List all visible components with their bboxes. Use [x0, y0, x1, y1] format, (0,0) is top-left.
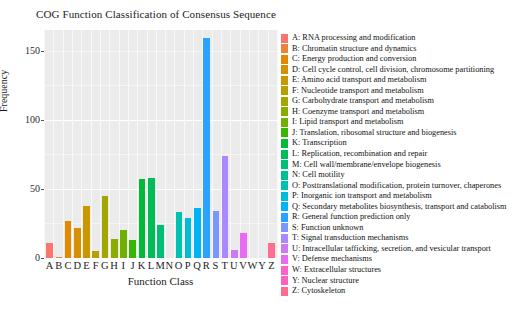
bar-slot: [73, 30, 82, 258]
x-axis-title: Function Class: [44, 275, 277, 287]
bar-slot: [184, 30, 193, 258]
legend-item[interactable]: S: Function unknown: [281, 223, 513, 234]
legend-item[interactable]: L: Replication, recombination and repair: [281, 149, 513, 160]
bar-p[interactable]: [185, 218, 192, 258]
legend-label: H: Coenzyme transport and metabolism: [292, 107, 424, 117]
legend-swatch-icon: [281, 107, 288, 116]
legend-item[interactable]: E: Amino acid transport and metabolism: [281, 75, 513, 86]
legend-swatch-icon: [281, 213, 288, 222]
bar-u[interactable]: [231, 250, 238, 258]
bar-g[interactable]: [102, 196, 109, 258]
legend-label: C: Energy production and conversion: [292, 54, 416, 64]
legend-swatch-icon: [281, 86, 288, 95]
bar-slot: [267, 30, 276, 258]
legend-swatch-icon: [281, 55, 288, 64]
legend-item[interactable]: V: Defense mechanisms: [281, 254, 513, 265]
legend-item[interactable]: P: Inorganic ion transport and metabolis…: [281, 191, 513, 202]
legend-item[interactable]: F: Nucleotide transport and metabolism: [281, 86, 513, 97]
bar-i[interactable]: [120, 230, 127, 258]
legend-item[interactable]: C: Energy production and conversion: [281, 54, 513, 65]
bar-z[interactable]: [268, 243, 275, 258]
legend-item[interactable]: U: Intracellular tafficking, secretion, …: [281, 244, 513, 255]
bar-a[interactable]: [46, 243, 53, 258]
legend-item[interactable]: H: Coenzyme transport and metabolism: [281, 107, 513, 118]
bar-q[interactable]: [194, 208, 201, 258]
legend-item[interactable]: Z: Cytoskeleton: [281, 286, 513, 297]
legend-swatch-icon: [281, 234, 288, 243]
bar-slot: [63, 30, 72, 258]
legend-label: U: Intracellular tafficking, secretion, …: [292, 244, 491, 254]
legend-swatch-icon: [281, 34, 288, 43]
x-tick-label: I: [119, 260, 128, 271]
legend-item[interactable]: D: Cell cycle control, cell division, ch…: [281, 65, 513, 76]
bar-l[interactable]: [148, 178, 155, 258]
legend-swatch-icon: [281, 44, 288, 53]
legend-swatch-icon: [281, 150, 288, 159]
x-tick-label: Y: [258, 260, 267, 271]
x-tick-label: R: [202, 260, 211, 271]
legend-label: K: Transcription: [292, 138, 347, 148]
legend-label: E: Amino acid transport and metabolism: [292, 75, 426, 85]
x-tick-label: N: [165, 260, 174, 271]
bar-slot: [128, 30, 137, 258]
x-tick-label: C: [63, 260, 72, 271]
x-tick-label: Q: [192, 260, 201, 271]
x-tick-label: L: [146, 260, 155, 271]
x-tick-label: G: [100, 260, 109, 271]
legend-label: J: Translation, ribosomal structure and …: [292, 128, 457, 138]
x-tick-label: D: [73, 260, 82, 271]
bar-v[interactable]: [240, 233, 247, 258]
bar-slot: [248, 30, 257, 258]
bar-slot: [257, 30, 266, 258]
bar-slot: [165, 30, 174, 258]
x-tick-label: H: [109, 260, 118, 271]
y-tick-mark: [41, 51, 44, 52]
legend-label: V: Defense mechanisms: [292, 254, 372, 264]
legend-item[interactable]: G: Carbohydrate transport and metabolism: [281, 96, 513, 107]
bar-t[interactable]: [222, 156, 229, 258]
bar-o[interactable]: [176, 212, 183, 258]
legend-item[interactable]: I: Lipid transport and metabolism: [281, 117, 513, 128]
x-tick-label: T: [220, 260, 229, 271]
chart-root: COG Function Classification of Consensus…: [0, 0, 514, 312]
legend-item[interactable]: O: Posttranslational modification, prote…: [281, 181, 513, 192]
bar-f[interactable]: [92, 251, 99, 258]
legend-item[interactable]: W: Extracellular structures: [281, 265, 513, 276]
legend-item[interactable]: Y: Nuclear structure: [281, 276, 513, 287]
y-tick-mark: [41, 189, 44, 190]
legend-swatch-icon: [281, 181, 288, 190]
bar-slot: [220, 30, 229, 258]
x-tick-label: V: [238, 260, 247, 271]
legend-swatch-icon: [281, 287, 288, 296]
plot-area: [44, 30, 277, 258]
bar-k[interactable]: [139, 179, 146, 258]
legend-item[interactable]: Q: Secondary metabolites biosynthesis, t…: [281, 202, 513, 213]
legend-item[interactable]: T: Signal transduction mechanisms: [281, 233, 513, 244]
legend-label: B: Chromatin structure and dynamics: [292, 44, 416, 54]
bar-m[interactable]: [157, 225, 164, 258]
legend-item[interactable]: R: General function prediction only: [281, 212, 513, 223]
legend-label: N: Cell motility: [292, 170, 345, 180]
legend-item[interactable]: K: Transcription: [281, 138, 513, 149]
legend-item[interactable]: B: Chromatin structure and dynamics: [281, 44, 513, 55]
legend-swatch-icon: [281, 202, 288, 211]
x-tick-label: B: [54, 260, 63, 271]
x-tick-label: E: [82, 260, 91, 271]
legend-item[interactable]: M: Cell wall/membrane/envelope biogenesi…: [281, 160, 513, 171]
bar-s[interactable]: [213, 211, 220, 258]
legend-item[interactable]: A: RNA processing and modification: [281, 33, 513, 44]
bar-d[interactable]: [74, 228, 81, 258]
bar-slot: [54, 30, 63, 258]
legend-item[interactable]: J: Translation, ribosomal structure and …: [281, 128, 513, 139]
bar-b[interactable]: [56, 257, 63, 258]
bar-r[interactable]: [203, 38, 210, 258]
bar-j[interactable]: [129, 240, 136, 258]
legend-swatch-icon: [281, 128, 288, 137]
bar-c[interactable]: [65, 221, 72, 258]
legend-label: T: Signal transduction mechanisms: [292, 233, 408, 243]
legend-item[interactable]: N: Cell motility: [281, 170, 513, 181]
bar-e[interactable]: [83, 206, 90, 259]
bar-slot: [211, 30, 220, 258]
bar-h[interactable]: [111, 239, 118, 258]
y-tick-label: 150: [0, 45, 40, 56]
